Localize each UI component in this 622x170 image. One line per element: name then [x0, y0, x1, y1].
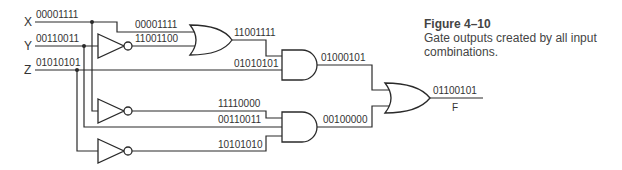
- input-z-value: 01010101: [36, 57, 81, 68]
- input-y-value: 00110011: [36, 33, 79, 44]
- and2-output-value: 00100000: [323, 114, 368, 125]
- junction-dot-z: [75, 68, 79, 72]
- or1-input-a-value: 00001111: [135, 19, 178, 30]
- or1-output-value: 11001111: [234, 27, 276, 38]
- and-gate-2: [282, 112, 317, 142]
- output-f-label: F: [452, 102, 458, 113]
- input-x-value: 00001111: [36, 9, 79, 20]
- input-z-label: Z: [24, 63, 31, 77]
- and1-output-value: 01000101: [321, 52, 366, 63]
- junction-dot-x: [90, 20, 94, 24]
- or1-input-b-value: 11001100: [135, 33, 178, 44]
- and2-input-b-value: 00110011: [218, 114, 261, 125]
- or-gate-1: [190, 25, 232, 55]
- wire-x-tap: [92, 22, 98, 111]
- input-x-label: X: [24, 15, 32, 29]
- not-gate-x: [98, 99, 132, 123]
- input-y-label: Y: [24, 39, 32, 53]
- junction-dot-y: [82, 44, 86, 48]
- wire-or1-out: [232, 40, 282, 56]
- not-z-output-value: 10101010: [218, 139, 263, 150]
- and-gate-1: [282, 50, 317, 80]
- wire-and1-out: [317, 65, 390, 90]
- figure-title: Figure 4–10: [424, 17, 619, 31]
- output-f-value: 01100101: [433, 85, 477, 96]
- not-x-output-value: 11110000: [218, 98, 261, 109]
- figure-caption: Figure 4–10 Gate outputs created by all …: [424, 17, 619, 59]
- figure-description: Gate outputs created by all input combin…: [424, 31, 619, 59]
- and1-input-b-value: 01010101: [234, 58, 279, 69]
- not-gate-z: [98, 139, 132, 163]
- or-gate-2: [385, 83, 430, 113]
- not-gate-y: [98, 34, 132, 58]
